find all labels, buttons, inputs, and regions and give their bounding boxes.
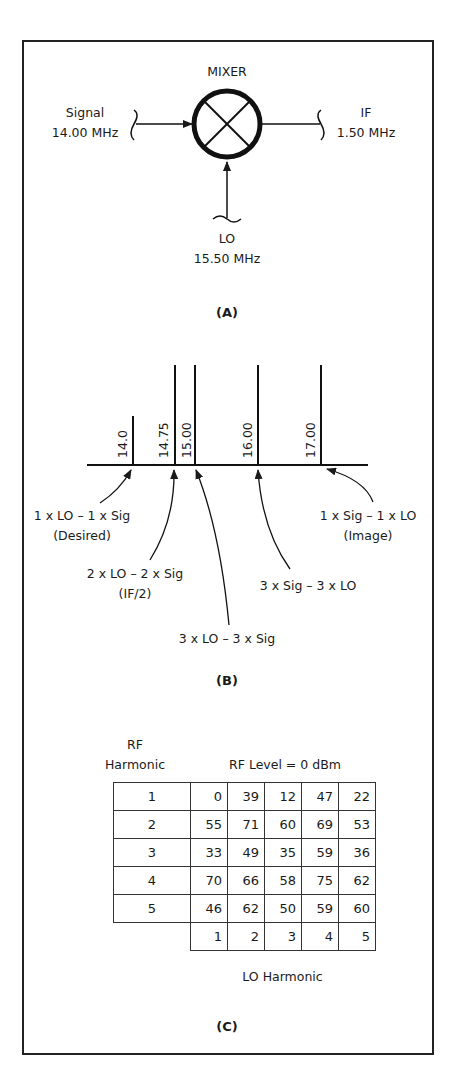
annotation-3lo-3sig: 3 x LO – 3 x Sig (167, 629, 287, 649)
rf-harmonic-header-2: Harmonic (100, 755, 170, 775)
lo-input-line (213, 162, 241, 222)
table-cell: 60 (265, 811, 302, 839)
mixer-title: MIXER (197, 62, 257, 82)
table-cell: 49 (228, 839, 265, 867)
lo-harmonic-header-row: 1 2 3 4 5 (114, 923, 376, 951)
table-row: 1 0 39 12 47 22 (114, 783, 376, 811)
annotation-if-half-sub: (IF/2) (75, 584, 195, 604)
spectrum-label-14-0: 14.0 (115, 430, 130, 458)
lo-harmonic-cell: 5 (339, 923, 376, 951)
table-cell: 22 (339, 783, 376, 811)
if-label: IF (326, 103, 406, 123)
annotation-desired-sub: (Desired) (22, 526, 142, 546)
table-cell: 35 (265, 839, 302, 867)
table-row: 4 70 66 58 75 62 (114, 867, 376, 895)
rf-harmonic-cell: 3 (114, 839, 191, 867)
rf-harmonic-cell: 4 (114, 867, 191, 895)
signal-label: Signal (40, 103, 130, 123)
rf-harmonic-cell: 5 (114, 895, 191, 923)
table-cell: 66 (228, 867, 265, 895)
table-cell: 53 (339, 811, 376, 839)
table-cell: 60 (339, 895, 376, 923)
table-cell: 62 (228, 895, 265, 923)
harmonic-table: 1 0 39 12 47 22 2 55 71 60 69 53 3 33 49… (113, 782, 376, 951)
table-cell: 36 (339, 839, 376, 867)
spectrum-label-17-00: 17.00 (303, 422, 318, 458)
rf-harmonic-header-1: RF (100, 735, 170, 755)
table-cell: 0 (191, 783, 228, 811)
signal-frequency: 14.00 MHz (40, 123, 130, 143)
table-cell: 71 (228, 811, 265, 839)
if-frequency: 1.50 MHz (326, 123, 406, 143)
annotation-3sig-3lo: 3 x Sig – 3 x LO (248, 576, 368, 596)
signal-input-line (131, 110, 192, 140)
mixer-symbol (194, 91, 260, 157)
spectrum-label-16-00: 16.00 (240, 422, 255, 458)
lo-harmonic-cell: 3 (265, 923, 302, 951)
caption-b: (B) (207, 673, 247, 688)
table-row: 3 33 49 35 59 36 (114, 839, 376, 867)
lo-harmonic-cell: 2 (228, 923, 265, 951)
table-cell: 58 (265, 867, 302, 895)
table-cell: 33 (191, 839, 228, 867)
table-cell: 47 (302, 783, 339, 811)
table-cell: 59 (302, 839, 339, 867)
table-row: 5 46 62 50 59 60 (114, 895, 376, 923)
table-cell: 62 (339, 867, 376, 895)
lo-frequency: 15.50 MHz (182, 249, 272, 269)
annotation-image: 1 x Sig – 1 x LO (308, 506, 428, 526)
lo-label: LO (182, 229, 272, 249)
spectrum-label-15-00: 15.00 (179, 422, 194, 458)
table-row: 2 55 71 60 69 53 (114, 811, 376, 839)
table-cell: 59 (302, 895, 339, 923)
lo-harmonic-axis-label: LO Harmonic (190, 967, 375, 987)
spectrum-label-14-75: 14.75 (156, 422, 171, 458)
annotation-desired: 1 x LO – 1 x Sig (22, 506, 142, 526)
lo-harmonic-cell: 1 (191, 923, 228, 951)
caption-a: (A) (207, 305, 247, 320)
blank-cell (114, 923, 191, 951)
lo-harmonic-cell: 4 (302, 923, 339, 951)
rf-harmonic-cell: 2 (114, 811, 191, 839)
rf-level-label: RF Level = 0 dBm (200, 755, 370, 775)
if-output-line (261, 110, 324, 140)
rf-harmonic-cell: 1 (114, 783, 191, 811)
table-cell: 69 (302, 811, 339, 839)
annotation-image-sub: (Image) (308, 526, 428, 546)
table-cell: 55 (191, 811, 228, 839)
caption-c: (C) (207, 1019, 247, 1034)
annotation-if-half: 2 x LO – 2 x Sig (75, 564, 195, 584)
table-cell: 75 (302, 867, 339, 895)
table-cell: 46 (191, 895, 228, 923)
table-cell: 50 (265, 895, 302, 923)
table-cell: 39 (228, 783, 265, 811)
table-cell: 12 (265, 783, 302, 811)
table-cell: 70 (191, 867, 228, 895)
